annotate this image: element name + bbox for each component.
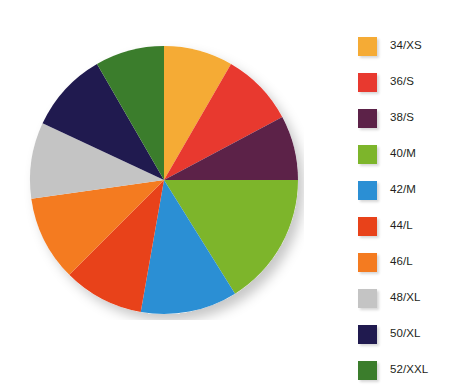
legend-color-swatch <box>358 325 377 344</box>
legend-item[interactable]: 38/S <box>358 100 466 136</box>
legend-item-label: 52/XXL <box>390 364 428 376</box>
pie-slice-group <box>30 46 298 314</box>
legend-item-label: 44/L <box>390 220 413 232</box>
legend-item[interactable]: 40/M <box>358 136 466 172</box>
legend-item-label: 42/M <box>390 184 416 196</box>
pie-chart-svg <box>24 40 304 320</box>
legend-item-label: 48/XL <box>390 292 421 304</box>
legend-item-label: 36/S <box>390 76 414 88</box>
legend-item-label: 46/L <box>390 256 413 268</box>
legend-item[interactable]: 50/XL <box>358 316 466 352</box>
legend-swatch-fill <box>358 325 377 344</box>
legend-item-label: 38/S <box>390 112 414 124</box>
pie-chart-plot-area <box>24 40 304 320</box>
legend-swatch-fill <box>358 217 377 236</box>
legend-item[interactable]: 48/XL <box>358 280 466 316</box>
legend-color-swatch <box>358 109 377 128</box>
legend-item[interactable]: 42/M <box>358 172 466 208</box>
chart-legend: 34/XS36/S38/S40/M42/M44/L46/L48/XL50/XL5… <box>358 28 466 385</box>
legend-swatch-fill <box>358 361 377 380</box>
legend-color-swatch <box>358 181 377 200</box>
legend-swatch-fill <box>358 253 377 272</box>
legend-item[interactable]: 46/L <box>358 244 466 280</box>
pie-chart-figure: 34/XS36/S38/S40/M42/M44/L46/L48/XL50/XL5… <box>0 0 470 385</box>
legend-swatch-fill <box>358 145 377 164</box>
legend-color-swatch <box>358 361 377 380</box>
legend-item-label: 40/M <box>390 148 416 160</box>
legend-swatch-fill <box>358 181 377 200</box>
legend-color-swatch <box>358 217 377 236</box>
legend-color-swatch <box>358 253 377 272</box>
legend-swatch-fill <box>358 109 377 128</box>
legend-color-swatch <box>358 289 377 308</box>
legend-swatch-fill <box>358 289 377 308</box>
legend-swatch-fill <box>358 37 377 56</box>
legend-item-label: 34/XS <box>390 40 422 52</box>
legend-color-swatch <box>358 73 377 92</box>
legend-item[interactable]: 34/XS <box>358 28 466 64</box>
legend-color-swatch <box>358 37 377 56</box>
legend-swatch-fill <box>358 73 377 92</box>
legend-item-label: 50/XL <box>390 328 421 340</box>
legend-item[interactable]: 36/S <box>358 64 466 100</box>
legend-color-swatch <box>358 145 377 164</box>
legend-item[interactable]: 52/XXL <box>358 352 466 385</box>
legend-item[interactable]: 44/L <box>358 208 466 244</box>
